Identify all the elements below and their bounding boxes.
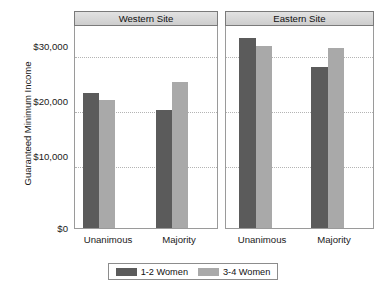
legend-label-3-4-women: 3-4 Women xyxy=(223,267,270,277)
chart-figure: Guaranteed Minimum Income $30,000 $20,00… xyxy=(0,0,385,296)
legend-swatch-icon-1-2-women xyxy=(116,268,137,276)
panel-header-eastern-site: Eastern Site xyxy=(225,11,374,26)
x-label-western-unanimous: Unanimous xyxy=(84,234,133,245)
bar-eastern-majority-1-2-women[interactable] xyxy=(311,67,328,229)
bar-western-majority-1-2-women[interactable] xyxy=(156,110,172,230)
x-label-eastern-majority: Majority xyxy=(317,234,351,245)
bar-western-unanimous-1-2-women[interactable] xyxy=(83,93,99,229)
bar-eastern-unanimous-1-2-women[interactable] xyxy=(239,38,256,229)
legend-item-3-4-women[interactable]: 3-4 Women xyxy=(198,267,270,277)
legend-label-1-2-women: 1-2 Women xyxy=(141,267,188,277)
y-tick-label-20000: $20,000 xyxy=(18,96,68,107)
panel-header-western-site: Western Site xyxy=(74,11,218,26)
x-label-western-majority: Majority xyxy=(162,234,196,245)
plot-area-western-site xyxy=(75,26,217,228)
panel-body-eastern-site xyxy=(225,26,374,229)
bar-eastern-majority-3-4-women[interactable] xyxy=(328,48,344,229)
y-axis: $30,000 $20,000 $10,000 $0 xyxy=(14,0,68,296)
legend-swatch-icon-3-4-women xyxy=(198,268,219,276)
bar-western-majority-3-4-women[interactable] xyxy=(172,82,188,229)
panel-eastern-site: Eastern Site xyxy=(225,11,374,229)
bar-western-unanimous-3-4-women[interactable] xyxy=(99,100,115,229)
legend-item-1-2-women[interactable]: 1-2 Women xyxy=(116,267,188,277)
y-tick-label-30000: $30,000 xyxy=(18,41,68,52)
bar-eastern-unanimous-3-4-women[interactable] xyxy=(256,46,272,229)
x-label-eastern-unanimous: Unanimous xyxy=(238,234,287,245)
panel-western-site: Western Site xyxy=(74,11,218,229)
y-tick-label-0: $0 xyxy=(18,223,68,234)
panel-body-western-site xyxy=(74,26,218,229)
plot-area-eastern-site xyxy=(226,26,373,228)
chart-legend: 1-2 Women 3-4 Women xyxy=(108,263,278,280)
y-tick-label-10000: $10,000 xyxy=(18,151,68,162)
